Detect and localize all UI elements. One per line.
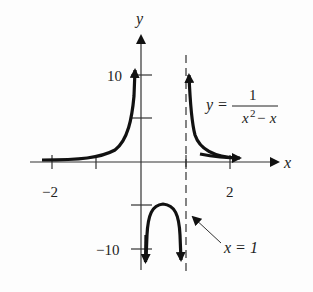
y-axis-label: y: [134, 10, 144, 28]
chart: y x −2 2 10 −10 y = 1 x 2 − x x = 1: [0, 0, 313, 292]
tick-label-10: 10: [107, 68, 122, 84]
chart-svg: y x −2 2 10 −10 y = 1 x 2 − x x = 1: [0, 0, 313, 292]
curve-middle-branch: [146, 204, 181, 260]
svg-text:1: 1: [249, 87, 257, 103]
svg-text:2: 2: [250, 107, 256, 119]
equation-label: y = 1 x 2 − x: [204, 87, 278, 126]
tick-label-neg10: −10: [96, 242, 119, 258]
svg-text:− x: − x: [256, 110, 277, 126]
asymptote-label: x = 1: [223, 239, 258, 256]
x-axis-label: x: [283, 154, 291, 171]
curve-right-branch: [189, 75, 237, 158]
svg-text:y =: y =: [204, 96, 228, 114]
svg-text:x: x: [241, 110, 249, 126]
tick-label-neg2: −2: [42, 184, 58, 200]
asymptote-pointer: [193, 217, 221, 243]
tick-label-2: 2: [226, 184, 234, 200]
